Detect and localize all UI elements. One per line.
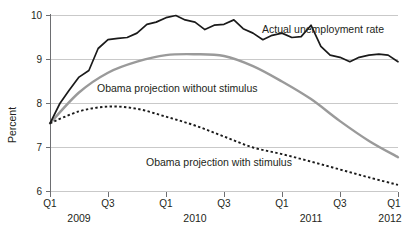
y-tick-label-10: 10	[31, 10, 43, 21]
y-tick-label-7: 7	[36, 142, 42, 153]
chart-canvas: 10 9 8 7 6 Percent Q1 Q3 Q1 Q3 Q1 Q3 Q1 …	[0, 0, 405, 232]
y-tick-label-8: 8	[36, 98, 42, 109]
x-tick-label-6: Q1	[387, 198, 401, 209]
series-line-without-stimulus	[50, 54, 398, 157]
x-tick-label-2: Q1	[159, 198, 173, 209]
x-year-label-2009: 2009	[67, 212, 91, 224]
actual-unemployment-label: Actual unemployment rate	[262, 23, 384, 35]
y-tick-marks	[46, 16, 50, 192]
y-tick-label-6: 6	[36, 186, 42, 197]
x-year-label-2011: 2011	[300, 212, 323, 224]
y-tick-label-9: 9	[36, 54, 42, 65]
x-tick-label-3: Q3	[217, 198, 231, 209]
y-axis-title: Percent	[6, 107, 18, 143]
without-stimulus-label: Obama projection without stimulus	[97, 82, 258, 94]
x-tick-label-5: Q3	[333, 198, 347, 209]
x-tick-label-4: Q1	[275, 198, 289, 209]
series-line-with-stimulus	[50, 106, 398, 184]
x-year-label-2010: 2010	[183, 212, 207, 224]
with-stimulus-label: Obama projection with stimulus	[146, 156, 292, 168]
unemployment-chart: 10 9 8 7 6 Percent Q1 Q3 Q1 Q3 Q1 Q3 Q1 …	[0, 0, 405, 232]
x-tick-label-1: Q3	[101, 198, 115, 209]
x-tick-marks	[51, 192, 399, 197]
x-tick-label-0: Q1	[43, 198, 57, 209]
x-year-label-2012: 2012	[378, 212, 402, 224]
